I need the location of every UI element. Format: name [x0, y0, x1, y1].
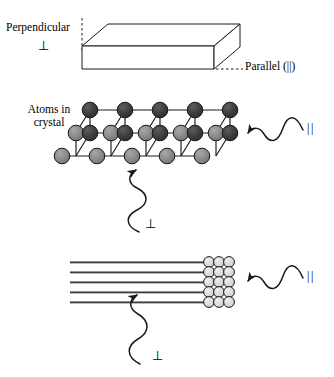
- atoms-in-crystal-label: Atoms in crystal: [16, 103, 82, 129]
- fiber-lines: [70, 261, 216, 303]
- perpendicular-symbol-lattice: ⊥: [145, 216, 156, 231]
- fiber-cross-section: [204, 257, 235, 308]
- perpendicular-symbol-fiber: ⊥: [152, 348, 163, 363]
- lattice-panel: [54, 102, 303, 232]
- perpendicular-symbol-slab: ⊥: [38, 38, 49, 53]
- wave-parallel-lattice: [248, 118, 303, 141]
- parallel-label: Parallel (||): [245, 60, 295, 73]
- slab-front-face: [82, 46, 214, 69]
- anisotropy-figure: Perpendicular Parallel (||) Atoms in cry…: [0, 0, 334, 377]
- wave-perpendicular-fiber: [129, 295, 147, 364]
- figure-canvas: [0, 0, 334, 377]
- slab-panel: [82, 18, 243, 69]
- fiber-panel: [70, 257, 303, 364]
- parallel-symbol-lattice: ||: [307, 121, 315, 136]
- perpendicular-label: Perpendicular: [6, 21, 70, 34]
- slab-top-face: [82, 24, 240, 46]
- parallel-symbol-fiber: ||: [307, 269, 315, 284]
- wave-parallel-fiber: [248, 266, 303, 289]
- wave-perpendicular-lattice: [128, 170, 146, 232]
